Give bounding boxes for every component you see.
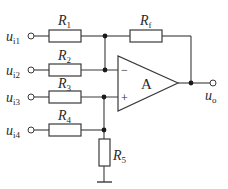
output-label-uo: uo xyxy=(205,88,217,105)
noninverting-input-sign: + xyxy=(121,91,128,105)
input-label-ui3: ui3 xyxy=(6,90,21,107)
input-terminal-3 xyxy=(28,94,34,100)
resistor-label-rf: Rf xyxy=(139,13,152,30)
junction-node xyxy=(103,34,108,39)
resistor-rf xyxy=(130,30,162,42)
resistor-r2 xyxy=(49,64,81,76)
resistor-r1 xyxy=(49,30,81,42)
ground-branch: R5 xyxy=(97,139,127,182)
resistor-label-r5: R5 xyxy=(112,148,127,165)
resistor-label-r1: R1 xyxy=(57,13,71,30)
resistor-label-r4: R4 xyxy=(57,108,72,125)
input-label-ui4: ui4 xyxy=(6,123,21,140)
resistor-r3 xyxy=(49,91,81,103)
inverting-input-sign: − xyxy=(121,63,128,77)
op-amp: A − + xyxy=(118,56,178,111)
junction-node xyxy=(189,81,194,86)
input-label-ui1: ui1 xyxy=(6,29,20,46)
resistor-r5 xyxy=(99,139,110,166)
input-terminal-1 xyxy=(28,33,34,39)
output-branch: uo xyxy=(178,80,217,105)
output-terminal xyxy=(210,80,216,86)
input-branch-4: ui4 R4 xyxy=(6,108,104,140)
junction-node xyxy=(102,95,107,100)
input-branch-1: ui1 R1 xyxy=(6,13,105,46)
input-branch-3: ui3 R3 xyxy=(6,76,118,107)
resistor-label-r2: R2 xyxy=(57,48,71,65)
input-terminal-4 xyxy=(28,127,34,133)
resistor-r4 xyxy=(49,124,81,136)
resistor-label-r3: R3 xyxy=(57,76,72,93)
input-terminal-2 xyxy=(28,67,34,73)
circuit-diagram: ui1 R1 ui2 R2 ui3 R3 ui4 R4 xyxy=(0,0,228,189)
op-amp-label: A xyxy=(141,76,152,92)
junction-node xyxy=(103,68,108,73)
input-label-ui2: ui2 xyxy=(6,63,20,80)
junction-node xyxy=(102,128,107,133)
